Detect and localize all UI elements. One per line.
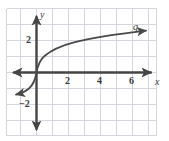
- y-tick-label-negative-2: −2: [19, 99, 30, 109]
- x-tick-label-6: 6: [129, 76, 134, 86]
- x-tick-label-4: 4: [97, 76, 102, 86]
- y-tick-label-2: 2: [26, 35, 31, 45]
- curve-label-q: q: [133, 22, 138, 32]
- curve-path-left: [16, 73, 37, 95]
- graph-figure: 2 −2 2 4 6 x y q: [0, 0, 169, 141]
- x-tick-label-2: 2: [65, 76, 70, 86]
- x-axis-label: x: [155, 77, 159, 87]
- coordinate-plane: [0, 0, 169, 141]
- y-axis-label: y: [40, 10, 44, 20]
